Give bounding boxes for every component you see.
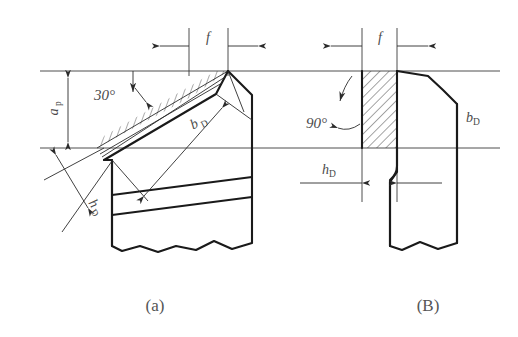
panel-b-feed-label: f: [378, 30, 384, 45]
panel-a-chip-thickness-dimension: [44, 148, 112, 232]
panel-b-chip-hatch-fill: [362, 71, 397, 148]
panel-a-depth-sub: p: [53, 101, 63, 106]
panel-a-depth-label: a: [46, 109, 61, 116]
panel-a-bd-witness-2: [228, 71, 244, 112]
panel-a-chip-width-label: b: [187, 116, 200, 133]
panel-a-tool-band-2: [112, 197, 252, 215]
panel-a-hd-witness-2: [62, 161, 112, 232]
panel-b-chip-width-label: b: [466, 110, 473, 125]
panel-b-chip-width-label-group: b D: [466, 110, 480, 127]
panel-b-angle-arrow-up: [340, 76, 352, 101]
panel-a-tool-band-1: [112, 177, 252, 195]
panel-a-caption: (a): [146, 296, 165, 315]
panel-a-angle-label: 30°: [93, 87, 115, 103]
panel-b-angle-arrow-down: [338, 124, 360, 129]
panel-b-angle-leader: [338, 76, 360, 129]
panel-b-tool-nose-transition: [390, 148, 397, 246]
panel-a-angle-arrow-down: [135, 88, 146, 102]
panel-b-caption: (B): [417, 296, 440, 315]
panel-b-chip-thickness-sub: D: [329, 169, 336, 179]
panel-a-feed-label: f: [206, 30, 212, 45]
panel-b-chip-thickness-label: h: [322, 162, 329, 177]
panel-b-chip-thickness-label-group: h D: [322, 162, 336, 179]
technical-drawing-figure: f a p 30°: [0, 0, 518, 337]
panel-b-chip-width-sub: D: [473, 117, 480, 127]
panel-a-tool-face-edge: [216, 94, 252, 120]
panel-a-depth-label-group: a p: [46, 101, 63, 116]
panel-a-chip-width-label-group: b D: [187, 111, 209, 134]
panel-b-tool-body-outline: [390, 71, 457, 250]
panel-a-chip-thickness-arrow: [56, 155, 88, 208]
panel-b-angle-label: 90°: [306, 115, 327, 131]
panel-a-angle-leader: [133, 71, 146, 102]
diagram-canvas: f a p 30°: [0, 0, 518, 337]
panel-a-chip-inner-line-2: [102, 77, 225, 157]
panel-a-chip-upper-edge: [97, 71, 228, 148]
panel-a-chip-width-sub: D: [199, 118, 210, 130]
panel-a-hd-witness-1: [44, 148, 104, 180]
